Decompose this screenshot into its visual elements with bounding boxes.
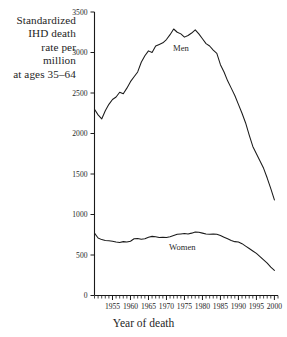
x-tick-label: 1995 bbox=[249, 302, 264, 311]
y-axis-tick-labels: 0500100015002000250030003500 bbox=[72, 8, 87, 301]
series-label-women: Women bbox=[169, 242, 196, 252]
y-tick-label: 2500 bbox=[72, 89, 87, 98]
x-tick-label: 1975 bbox=[177, 302, 192, 311]
x-tick-label: 1985 bbox=[213, 302, 228, 311]
y-tick-label: 1000 bbox=[72, 210, 87, 219]
axes: 0500100015002000250030003500 19551960196… bbox=[72, 8, 282, 311]
x-tick-label: 1960 bbox=[123, 302, 138, 311]
y-tick-label: 1500 bbox=[72, 170, 87, 179]
plot-area: 0500100015002000250030003500 19551960196… bbox=[0, 0, 287, 337]
x-tick-label: 1965 bbox=[141, 302, 156, 311]
chart-figure: Standardized IHD death rate per million … bbox=[0, 0, 287, 337]
x-tick-label: 1955 bbox=[105, 302, 120, 311]
y-tick-label: 0 bbox=[84, 291, 88, 300]
x-tick-label: 1980 bbox=[195, 302, 210, 311]
series-label-men: Men bbox=[173, 43, 189, 53]
x-tick-label: 1970 bbox=[159, 302, 174, 311]
x-axis-title: Year of death bbox=[0, 317, 287, 329]
y-tick-label: 2000 bbox=[72, 129, 87, 138]
y-tick-label: 500 bbox=[76, 251, 88, 260]
y-tick-label: 3000 bbox=[72, 48, 87, 57]
x-axis-ticks bbox=[95, 296, 279, 301]
x-axis-tick-labels: 1955196019651970197519801985199019952000 bbox=[105, 302, 282, 311]
series-line-men bbox=[95, 29, 275, 200]
x-tick-label: 1990 bbox=[231, 302, 246, 311]
data-series bbox=[95, 29, 275, 270]
x-tick-label: 2000 bbox=[267, 302, 282, 311]
y-tick-label: 3500 bbox=[72, 8, 87, 17]
y-axis-ticks bbox=[91, 12, 95, 296]
